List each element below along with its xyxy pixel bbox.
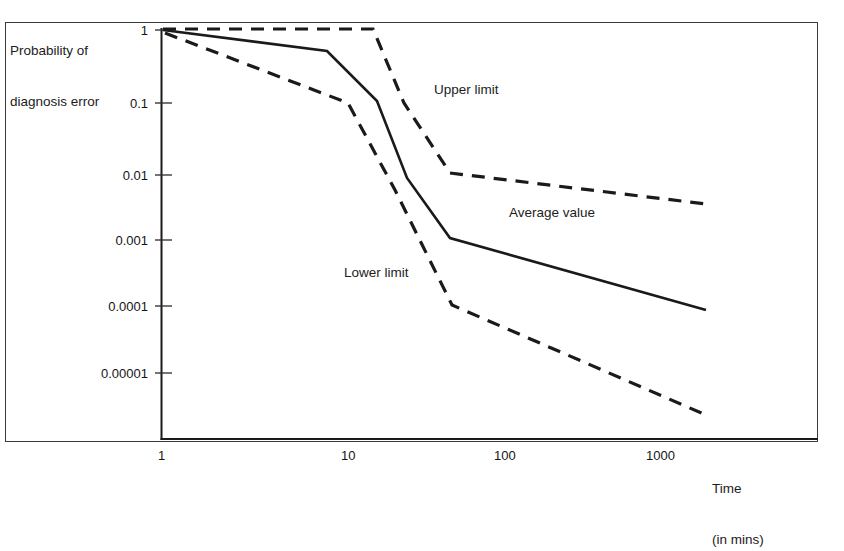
y-tick-label-1: 1 xyxy=(60,23,148,38)
y-tick-label-0-1: 0.1 xyxy=(60,96,148,111)
annotation-average-value: Average value xyxy=(509,205,595,220)
x-axis-title-line1: Time xyxy=(712,480,822,497)
y-tick-label-0-001: 0.001 xyxy=(60,233,148,248)
y-axis-title-line1: Probability of xyxy=(10,42,160,59)
y-tick-label-0-01: 0.01 xyxy=(60,168,148,183)
x-axis-title-line2: (in mins) xyxy=(712,531,822,548)
series-upper-limit xyxy=(163,29,706,204)
x-tick-label-1: 1 xyxy=(158,448,165,463)
x-axis-title: Time (in mins) xyxy=(712,446,822,551)
annotation-lower-limit: Lower limit xyxy=(344,265,409,280)
y-tick-label-0-00001: 0.00001 xyxy=(46,366,148,381)
x-tick-label-100: 100 xyxy=(494,448,516,463)
x-tick-label-1000: 1000 xyxy=(646,448,675,463)
y-tick-label-0-0001: 0.0001 xyxy=(60,299,148,314)
annotation-upper-limit: Upper limit xyxy=(434,82,499,97)
x-tick-label-10: 10 xyxy=(341,448,355,463)
